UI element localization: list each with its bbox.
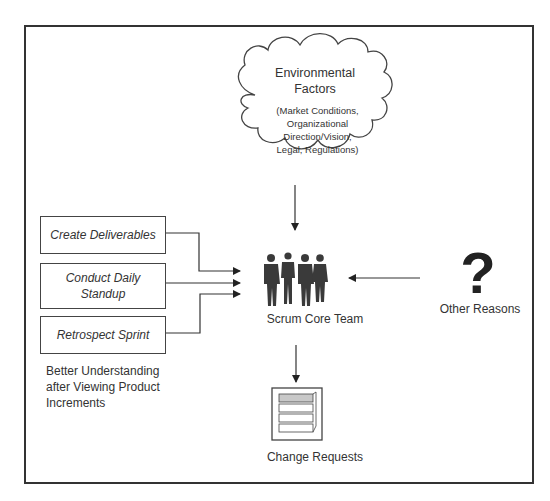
arrow-retrospect-sprint [166, 294, 240, 333]
process-create-deliverables: Create Deliverables [40, 216, 166, 254]
process-label: Standup [66, 286, 141, 302]
environmental-factors-details: (Market Conditions, Organizational Direc… [245, 104, 390, 156]
stacked-documents-icon [272, 388, 322, 440]
env-detail: (Market Conditions, [245, 104, 390, 117]
change-requests-label: Change Requests [250, 450, 380, 464]
better-understanding-line: Increments [46, 395, 176, 411]
process-conduct-daily-standup: Conduct Daily Standup [40, 263, 166, 309]
arrow-create-deliverables [166, 233, 240, 271]
process-label: Conduct Daily [66, 270, 141, 286]
other-reasons-label: Other Reasons [425, 302, 535, 316]
env-detail: Legal, Regulations) [245, 143, 390, 156]
env-detail: Direction/Vision, [245, 130, 390, 143]
better-understanding-line: Better Understanding [46, 363, 176, 379]
scrum-core-team-label: Scrum Core Team [255, 312, 375, 326]
process-label: Retrospect Sprint [57, 327, 150, 343]
env-title-line2: Factors [250, 81, 380, 97]
environmental-factors-title: Environmental Factors [250, 65, 380, 97]
process-retrospect-sprint: Retrospect Sprint [40, 316, 166, 354]
question-mark-icon: ? [448, 243, 508, 303]
env-title-line1: Environmental [250, 65, 380, 81]
process-label: Create Deliverables [50, 227, 155, 243]
better-understanding-text: Better Understanding after Viewing Produ… [46, 363, 176, 411]
team-silhouette-icon [264, 252, 328, 306]
better-understanding-line: after Viewing Product [46, 379, 176, 395]
env-detail: Organizational [245, 117, 390, 130]
